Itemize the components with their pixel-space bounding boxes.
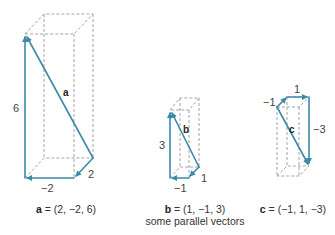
vector-c-caption: c = (−1, 1, −3) bbox=[252, 203, 334, 215]
vector-b-caption-equation: = (1, −1, 3) bbox=[171, 203, 225, 215]
vector-a-caption: a = (2, −2, 6) bbox=[25, 203, 107, 215]
vector-b-y-label: −1 bbox=[174, 182, 187, 194]
vector-c-name-label: c bbox=[289, 124, 295, 135]
vector-b-arrow bbox=[172, 113, 199, 167]
vector-a-name-label: a bbox=[63, 87, 69, 98]
vector-c-arrow bbox=[277, 107, 308, 164]
vector-a-z-label: 6 bbox=[13, 102, 19, 114]
vector-b-x-label: 1 bbox=[201, 172, 207, 184]
vector-a-arrow bbox=[27, 37, 93, 158]
vector-b-z-label: 3 bbox=[159, 139, 165, 151]
vector-a-caption-equation: = (2, −2, 6) bbox=[42, 203, 96, 215]
vector-a bbox=[25, 37, 93, 178]
vector-a-y-label: −2 bbox=[41, 182, 54, 194]
vector-b-name-label: b bbox=[183, 124, 189, 135]
vector-a-x-label: 2 bbox=[88, 168, 94, 180]
vector-c-x-label: −1 bbox=[263, 96, 276, 108]
figure-subcaption: some parallel vectors bbox=[140, 215, 250, 227]
vector-c-z-label: −3 bbox=[313, 123, 326, 135]
vector-c-caption-equation: = (−1, 1, −3) bbox=[266, 203, 326, 215]
parallel-vectors-diagram: 2 −2 6 a 1 −1 3 b −1 1 −3 c bbox=[0, 0, 335, 235]
vector-c-x-component bbox=[277, 98, 286, 107]
vector-c-y-label: 1 bbox=[294, 83, 300, 95]
vector-b bbox=[170, 113, 199, 178]
vector-b-x-component bbox=[190, 167, 199, 176]
vector-b-caption: b = (1, −1, 3) some parallel vectors bbox=[140, 203, 250, 227]
